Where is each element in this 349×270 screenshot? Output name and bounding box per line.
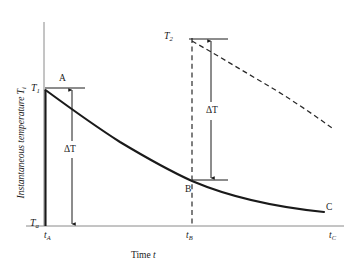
cooling-curve-figure: Instantaneous temperature Ti Time t T1 T… <box>0 0 349 270</box>
label-tB-subscript: B <box>189 234 193 241</box>
label-point-C: C <box>326 203 332 213</box>
label-Ta: Ta <box>30 218 39 228</box>
label-T2: T2 <box>164 31 173 41</box>
label-point-B: B <box>185 185 191 195</box>
label-T2-subscript: 2 <box>170 35 173 42</box>
x-axis-title-symbol: t <box>153 250 156 260</box>
y-axis-title: Instantaneous temperature Ti <box>17 63 27 223</box>
label-T1-symbol: T <box>31 82 37 93</box>
label-Ta-symbol: T <box>30 217 36 228</box>
label-tC-subscript: C <box>332 234 336 241</box>
label-T2-symbol: T <box>164 30 170 41</box>
label-T1-subscript: 1 <box>37 87 40 94</box>
label-tA: tA <box>44 231 51 241</box>
x-axis-title: Time t <box>131 251 156 261</box>
label-tC: tC <box>329 231 336 241</box>
label-delta-T-right: ΔT <box>206 106 218 116</box>
y-axis-title-symbol: T <box>16 89 26 94</box>
label-tB: tB <box>186 231 193 241</box>
label-delta-T-left: ΔT <box>64 145 76 155</box>
x-axis-title-text: Time <box>131 250 153 260</box>
y-axis-title-subscript: i <box>20 87 27 89</box>
label-tA-subscript: A <box>47 234 51 241</box>
plot-canvas <box>0 0 349 270</box>
label-point-A: A <box>59 74 66 84</box>
y-axis-title-text: Instantaneous temperature <box>16 94 26 198</box>
label-Ta-subscript: a <box>36 222 39 229</box>
label-T1: T1 <box>31 83 40 93</box>
